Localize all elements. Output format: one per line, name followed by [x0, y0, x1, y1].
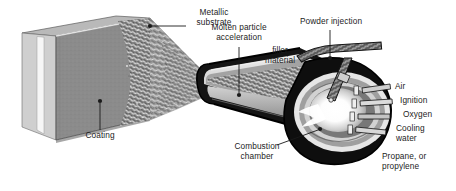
- label-filler-material: filler material: [258, 46, 302, 65]
- label-ignition: Ignition: [400, 96, 427, 106]
- spray-plume: [118, 18, 206, 126]
- label-oxygen: Oxygen: [403, 110, 432, 120]
- label-molten-particle-acceleration: Molten particle acceleration: [198, 23, 280, 42]
- label-cooling-water: Cooling water: [396, 124, 425, 143]
- label-coating: Coating: [76, 131, 124, 141]
- label-air: Air: [395, 82, 405, 92]
- label-propane-or-propylene: Propane, or propylene: [382, 152, 426, 171]
- label-combustion-chamber: Combustion chamber: [224, 142, 290, 161]
- label-powder-injection: Powder injection: [296, 17, 366, 27]
- combustion-chamber: [284, 48, 391, 164]
- diagram-canvas: Metallic substrate Coating Molten partic…: [0, 0, 456, 191]
